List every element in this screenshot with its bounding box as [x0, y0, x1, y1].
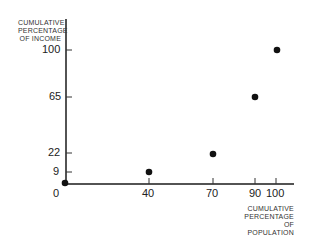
y-axis-label: CUMULATIVE PERCENTAGE OF INCOME: [18, 19, 61, 43]
point-0-0: [62, 180, 69, 187]
x-label-line: CUMULATIVE: [236, 205, 294, 213]
x-label-line: PERCENTAGE OF: [236, 213, 294, 229]
y-ticks: [66, 50, 72, 172]
y-tick-9: 9: [53, 165, 59, 177]
y-tick-22: 22: [48, 146, 60, 158]
origin-label: 0: [53, 187, 59, 199]
point-100-100: [274, 47, 281, 54]
y-label-line: CUMULATIVE: [18, 19, 61, 27]
y-label-line: PERCENTAGE: [18, 27, 61, 35]
y-label-line: OF INCOME: [18, 35, 61, 43]
x-tick-70: 70: [206, 187, 218, 199]
x-axis-label: CUMULATIVE PERCENTAGE OF POPULATION: [236, 205, 294, 237]
x-ticks: [149, 178, 276, 184]
x-tick-90: 90: [249, 187, 261, 199]
y-tick-65: 65: [49, 90, 61, 102]
point-40-9: [146, 169, 153, 176]
x-tick-40: 40: [142, 187, 154, 199]
x-label-line: POPULATION: [236, 229, 294, 237]
y-tick-100: 100: [42, 43, 60, 55]
data-points: [62, 47, 281, 187]
x-tick-100: 100: [266, 187, 284, 199]
point-90-65: [252, 94, 259, 101]
point-70-22: [210, 151, 217, 158]
